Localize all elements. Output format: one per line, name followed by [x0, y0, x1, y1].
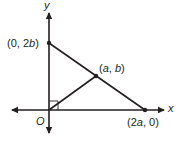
point-label-0-2b: (0, 2b) [7, 38, 39, 49]
diagram: y x O (0, 2b) (a, b) (2a, 0) [0, 0, 179, 147]
x-axis-label: x [168, 103, 174, 114]
origin-label: O [36, 116, 45, 127]
y-axis-label: y [44, 0, 50, 11]
point-label-2a-0: (2a, 0) [127, 117, 159, 128]
point-a-b [94, 74, 98, 78]
point-label-a-b: (a, b) [99, 63, 125, 74]
point-0-2b [47, 41, 51, 45]
point-2a-0 [143, 108, 147, 112]
segment-median [49, 76, 96, 110]
